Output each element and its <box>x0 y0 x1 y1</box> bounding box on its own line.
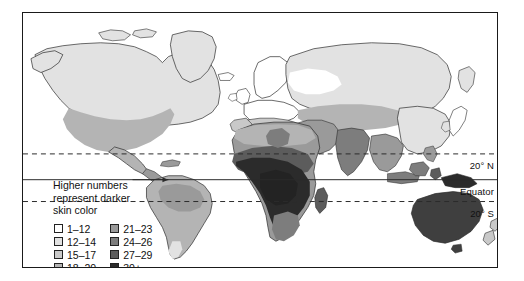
legend-label: 24–26 <box>123 236 152 248</box>
legend-swatch-icon <box>110 237 119 246</box>
map-caption: Higher numbers represent darker skin col… <box>53 179 130 217</box>
legend-label: 27–29 <box>123 249 152 261</box>
landmass-new-zealand-south <box>483 230 495 245</box>
landmass-arctic-islands <box>99 30 131 41</box>
india-shade <box>336 128 370 176</box>
legend-label: 12–14 <box>67 236 96 248</box>
region-south-america <box>146 176 212 259</box>
landmass-sulawesi <box>430 168 441 180</box>
legend-label: 1–12 <box>67 223 90 235</box>
legend-item: 27–29 <box>110 248 152 261</box>
legend-label: 30+ <box>123 262 141 269</box>
figure-frame: 20° N Equator 20° S Higher numbers repre… <box>22 12 498 268</box>
landmass-arctic-islands-2 <box>133 29 157 38</box>
region-africa <box>232 122 328 241</box>
legend-swatch-icon <box>54 237 63 246</box>
landmass-british-isles <box>236 88 250 104</box>
landmass-new-zealand <box>490 217 497 231</box>
legend-label: 15–17 <box>67 249 96 261</box>
legend-swatch-icon <box>110 263 119 268</box>
southern-africa-shade <box>272 211 300 241</box>
landmass-ireland <box>228 93 237 101</box>
legend-item: 15–17 <box>54 248 96 261</box>
landmass-japan <box>449 106 467 136</box>
map-legend: 1–12 21–23 12–14 24–26 15–17 27–29 <box>54 222 152 268</box>
landmass-caribbean <box>160 160 180 167</box>
caption-line-2: represent darker <box>53 192 130 205</box>
legend-item: 18–20 <box>54 261 96 268</box>
legend-item: 12–14 <box>54 235 96 248</box>
legend-label: 21–23 <box>123 223 152 235</box>
legend-label: 18–20 <box>67 262 96 269</box>
legend-item: 1–12 <box>54 222 96 235</box>
legend-swatch-icon <box>110 250 119 259</box>
latitude-label-20n: 20° N <box>470 160 494 171</box>
latitude-label-equator: Equator <box>460 186 494 197</box>
latitude-label-20s: 20° S <box>470 208 494 219</box>
landmass-mexico <box>109 147 149 174</box>
skin-color-world-map-figure: 20° N Equator 20° S Higher numbers repre… <box>0 0 524 281</box>
legend-swatch-icon <box>54 224 63 233</box>
legend-item: 30+ <box>110 261 152 268</box>
landmass-madagascar <box>315 188 328 214</box>
legend-swatch-icon <box>110 224 119 233</box>
region-greenland <box>170 31 234 83</box>
legend-swatch-icon <box>54 250 63 259</box>
landmass-tasmania <box>451 244 462 253</box>
legend-swatch-icon <box>54 263 63 268</box>
caption-line-1: Higher numbers <box>53 179 130 192</box>
landmass-kamchatka <box>458 67 475 93</box>
landmass-iceland <box>218 73 234 81</box>
caption-line-3: skin color <box>53 204 130 217</box>
landmass-scandinavia <box>254 57 290 99</box>
southeast-asia-shade <box>370 134 404 172</box>
legend-item: 24–26 <box>110 235 152 248</box>
legend-item: 21–23 <box>110 222 152 235</box>
